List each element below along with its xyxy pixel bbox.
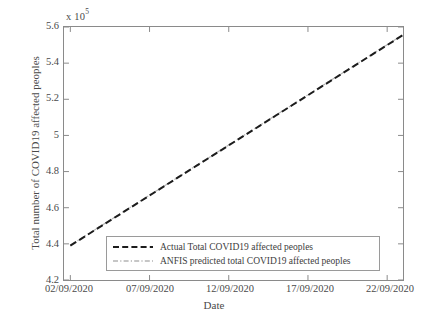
figure-canvas: x 105 5.6 5.4 5.2 5 4.8 4.6 4.4 4.2: [0, 0, 428, 323]
legend-label-actual: Actual Total COVID19 affected peoples: [160, 242, 313, 253]
x-axis-ticks-top: [70, 27, 387, 32]
x-tick-label: 07/09/2020: [126, 283, 174, 295]
data-line-actual: [70, 35, 403, 246]
chart-legend: Actual Total COVID19 affected peoples AN…: [106, 236, 380, 271]
y-axis-exponent-power: 5: [85, 7, 89, 16]
y-axis-title: Total number of COVID19 affected peoples: [29, 56, 41, 250]
y-tick-label: 5.6: [29, 21, 59, 31]
legend-label-anfis: ANFIS predicted total COVID19 affected p…: [160, 256, 351, 267]
x-axis-tick-labels: 02/09/2020 07/09/2020 12/09/2020 17/09/2…: [0, 283, 428, 299]
legend-sample-actual: [112, 241, 154, 253]
x-tick-label: 02/09/2020: [45, 283, 93, 295]
x-tick-label: 17/09/2020: [286, 283, 334, 295]
y-axis-title-wrap: Total number of COVID19 affected peoples: [25, 33, 41, 273]
x-tick-label: 22/09/2020: [366, 283, 414, 295]
legend-sample-anfis: [112, 255, 154, 267]
y-axis-exponent-label: x 105: [66, 8, 89, 22]
y-axis-exponent-base: x 10: [66, 11, 85, 22]
y-axis-ticks-left: [64, 27, 69, 280]
x-axis-title: Date: [0, 299, 428, 311]
y-axis-ticks-right: [398, 27, 403, 280]
legend-entry-anfis: ANFIS predicted total COVID19 affected p…: [107, 254, 379, 268]
legend-entry-actual: Actual Total COVID19 affected peoples: [107, 240, 379, 254]
x-axis-ticks-bottom: [70, 275, 387, 280]
x-tick-label: 12/09/2020: [206, 283, 254, 295]
